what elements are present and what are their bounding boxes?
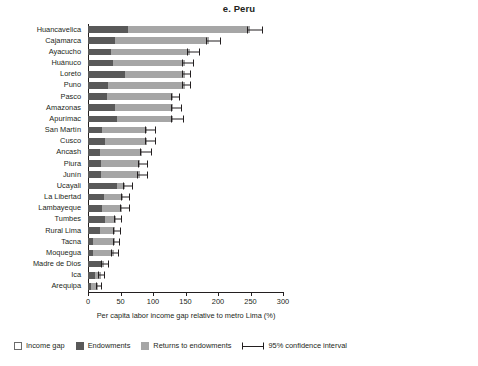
bar-segment-endowments[interactable]	[88, 138, 105, 145]
bar-row[interactable]	[88, 127, 283, 134]
bar-segment-endowments[interactable]	[88, 60, 113, 67]
stacked-bar[interactable]	[88, 138, 147, 145]
bar-segment-endowments[interactable]	[88, 205, 102, 212]
stacked-bar[interactable]	[88, 183, 125, 190]
bar-row[interactable]	[88, 26, 283, 33]
stacked-bar[interactable]	[88, 37, 209, 44]
confidence-interval-cap-low	[137, 171, 138, 178]
bar-row[interactable]	[88, 250, 283, 257]
x-axis-tick-label: 150	[179, 297, 191, 306]
stacked-bar[interactable]	[88, 127, 147, 134]
bar-segment-returns-to-endowments[interactable]	[117, 116, 173, 123]
confidence-interval-whisker	[113, 238, 120, 245]
bar-segment-endowments[interactable]	[88, 160, 101, 167]
bar-row[interactable]	[88, 194, 283, 201]
bar-segment-returns-to-endowments[interactable]	[102, 127, 147, 134]
bar-segment-endowments[interactable]	[88, 116, 117, 123]
stacked-bar[interactable]	[88, 149, 142, 156]
bar-segment-endowments[interactable]	[88, 93, 107, 100]
bar-segment-endowments[interactable]	[88, 194, 104, 201]
confidence-interval-cap-low	[113, 227, 114, 234]
bar-segment-endowments[interactable]	[88, 149, 100, 156]
confidence-interval-cap-low	[145, 138, 146, 145]
stacked-bar[interactable]	[88, 26, 250, 33]
bar-row[interactable]	[88, 160, 283, 167]
bar-row[interactable]	[88, 149, 283, 156]
y-axis-label: Ica	[71, 271, 81, 279]
y-axis-label: Ucayali	[57, 182, 81, 190]
bar-row[interactable]	[88, 183, 283, 190]
bar-row[interactable]	[88, 261, 283, 268]
bar-segment-endowments[interactable]	[88, 37, 115, 44]
confidence-interval-cap-low	[96, 283, 97, 290]
bar-row[interactable]	[88, 205, 283, 212]
bar-segment-returns-to-endowments[interactable]	[107, 93, 173, 100]
bar-row[interactable]	[88, 49, 283, 56]
bar-segment-endowments[interactable]	[88, 71, 125, 78]
legend-label-endowments: Endowments	[88, 341, 131, 350]
stacked-bar[interactable]	[88, 227, 115, 234]
bar-row[interactable]	[88, 82, 283, 89]
bar-segment-endowments[interactable]	[88, 26, 128, 33]
bar-row[interactable]	[88, 104, 283, 111]
bar-segment-endowments[interactable]	[88, 227, 100, 234]
plot-area	[88, 24, 283, 292]
bar-row[interactable]	[88, 272, 283, 279]
bar-segment-endowments[interactable]	[88, 49, 111, 56]
bar-segment-returns-to-endowments[interactable]	[111, 49, 190, 56]
bar-segment-endowments[interactable]	[88, 104, 115, 111]
y-axis-label: Piura	[64, 160, 81, 168]
bar-segment-returns-to-endowments[interactable]	[113, 60, 185, 67]
bar-row[interactable]	[88, 216, 283, 223]
y-axis-label: Ayacucho	[49, 48, 81, 56]
confidence-interval-cap-high	[190, 71, 191, 78]
bar-row[interactable]	[88, 238, 283, 245]
y-axis-label: Tacna	[61, 238, 81, 246]
bar-segment-returns-to-endowments[interactable]	[125, 71, 185, 78]
stacked-bar[interactable]	[88, 171, 140, 178]
bar-segment-endowments[interactable]	[88, 127, 102, 134]
bar-row[interactable]	[88, 138, 283, 145]
bar-segment-returns-to-endowments[interactable]	[108, 82, 185, 89]
bar-segment-returns-to-endowments[interactable]	[105, 138, 147, 145]
stacked-bar[interactable]	[88, 216, 116, 223]
bar-row[interactable]	[88, 283, 283, 290]
bar-segment-endowments[interactable]	[88, 82, 108, 89]
bar-row[interactable]	[88, 93, 283, 100]
bar-row[interactable]	[88, 37, 283, 44]
bar-segment-endowments[interactable]	[88, 272, 95, 279]
bar-row[interactable]	[88, 171, 283, 178]
bar-row[interactable]	[88, 116, 283, 123]
stacked-bar[interactable]	[88, 250, 114, 257]
bar-segment-returns-to-endowments[interactable]	[115, 37, 209, 44]
confidence-interval-cap-high	[147, 160, 148, 167]
stacked-bar[interactable]	[88, 160, 140, 167]
bar-segment-endowments[interactable]	[88, 171, 101, 178]
bar-row[interactable]	[88, 227, 283, 234]
stacked-bar[interactable]	[88, 71, 185, 78]
bar-segment-returns-to-endowments[interactable]	[128, 26, 250, 33]
stacked-bar[interactable]	[88, 82, 185, 89]
stacked-bar[interactable]	[88, 93, 173, 100]
bar-row[interactable]	[88, 60, 283, 67]
confidence-interval-whisker	[187, 49, 200, 56]
stacked-bar[interactable]	[88, 238, 115, 245]
bar-segment-returns-to-endowments[interactable]	[115, 104, 174, 111]
bar-segment-endowments[interactable]	[88, 216, 105, 223]
bar-segment-returns-to-endowments[interactable]	[101, 160, 140, 167]
stacked-bar[interactable]	[88, 205, 122, 212]
bar-segment-endowments[interactable]	[88, 183, 117, 190]
y-axis-label: Rural Lima	[45, 227, 81, 235]
stacked-bar[interactable]	[88, 104, 173, 111]
stacked-bar[interactable]	[88, 49, 190, 56]
bar-segment-endowments[interactable]	[88, 261, 101, 268]
confidence-interval-cap-low	[123, 182, 124, 189]
confidence-interval-whisker	[114, 216, 122, 223]
stacked-bar[interactable]	[88, 194, 123, 201]
stacked-bar[interactable]	[88, 60, 185, 67]
bar-segment-returns-to-endowments[interactable]	[100, 149, 142, 156]
confidence-interval-whisker	[171, 93, 181, 100]
bar-row[interactable]	[88, 71, 283, 78]
stacked-bar[interactable]	[88, 116, 173, 123]
bar-segment-returns-to-endowments[interactable]	[101, 171, 140, 178]
